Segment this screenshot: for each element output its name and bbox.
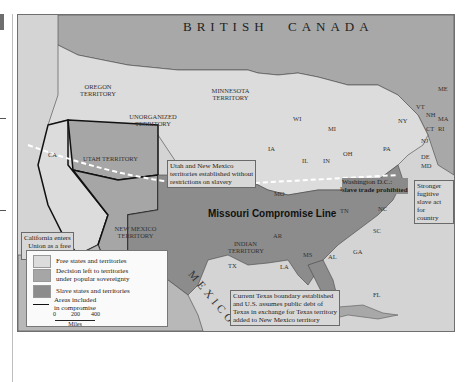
- label-new-mexico-territory: NEW MEXICO TERRITORY: [113, 225, 158, 239]
- state-md: MD: [421, 162, 431, 169]
- note-fugitive-slave-act: Stronger fugitive slave act for country: [414, 180, 454, 224]
- state-ar: AR: [273, 232, 282, 239]
- missouri-compromise-line-label: Missouri Compromise Line: [208, 208, 336, 219]
- state-ny: NY: [398, 117, 407, 124]
- label-utah-territory: UTAH TERRITORY: [83, 155, 138, 162]
- legend-item-compromise: Areas includedin compromise: [33, 297, 96, 312]
- state-ma: MA: [438, 115, 448, 122]
- label-indian-territory: INDIAN TERRITORY: [228, 240, 263, 254]
- page-gutter: [12, 14, 13, 382]
- label-unorganized-territory: UNORGANIZED TERRITORY: [123, 113, 183, 127]
- label-minnesota-territory: MINNESOTA TERRITORY: [203, 87, 258, 101]
- label-oregon-territory: OREGON TERRITORY: [73, 83, 123, 97]
- state-nc: NC: [378, 205, 387, 212]
- gutter-mark: [0, 210, 6, 211]
- state-wi: WI: [293, 115, 301, 122]
- compromise-map: BRITISH CANADA MEXICO OREGON TERRITORY M…: [17, 14, 455, 332]
- scale-bar: [55, 318, 95, 321]
- label-british: BRITISH: [183, 23, 269, 30]
- state-in: IN: [323, 157, 330, 164]
- note-utah-new-mexico: Utah and New Mexico territories establis…: [167, 160, 256, 188]
- state-mo: MO: [274, 190, 284, 197]
- swatch-free: [33, 255, 51, 268]
- state-ca: CA: [48, 151, 57, 158]
- state-ga: GA: [353, 248, 362, 255]
- note-dc: Washington D.C.: slave trade prohibited: [342, 178, 408, 194]
- state-al: AL: [328, 253, 337, 260]
- legend-item-popular-sovereignty: Decision left to territoriesunder popula…: [33, 268, 129, 283]
- state-me: ME: [438, 85, 448, 92]
- state-vt: VT: [416, 103, 425, 110]
- state-tn: TN: [340, 207, 349, 214]
- page-edge-tab: [0, 14, 4, 30]
- state-nh: NH: [426, 111, 435, 118]
- state-oh: OH: [343, 150, 352, 157]
- state-tx: TX: [228, 262, 237, 269]
- label-canada: CANADA: [288, 23, 374, 30]
- state-il: IL: [302, 157, 308, 164]
- boundary-line-symbol: [33, 304, 49, 306]
- state-sc: SC: [373, 227, 381, 234]
- state-fl: FL: [373, 291, 381, 298]
- state-ri: RI: [438, 125, 445, 132]
- state-nj: NJ: [421, 137, 428, 144]
- state-ia: IA: [268, 145, 275, 152]
- swatch-popular-sovereignty: [33, 269, 51, 282]
- state-de: DE: [421, 153, 430, 160]
- map-legend: Free states and territories Decision lef…: [26, 250, 168, 327]
- state-ct: CT: [426, 125, 434, 132]
- state-mi: MI: [328, 125, 336, 132]
- gutter-mark: [0, 118, 6, 119]
- state-la: LA: [280, 263, 289, 270]
- note-texas: Current Texas boundary established and U…: [230, 290, 340, 326]
- state-ms: MS: [303, 251, 312, 258]
- map-scale: 0 200 400 Miles: [55, 311, 95, 327]
- state-pa: PA: [383, 145, 391, 152]
